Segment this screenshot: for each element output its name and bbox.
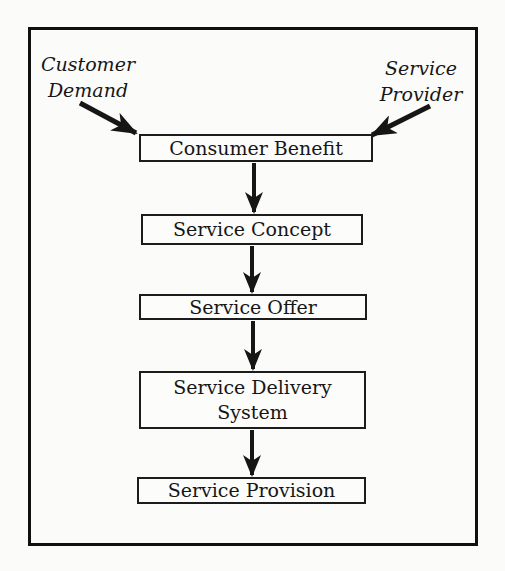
label-service-provider: Service Provider xyxy=(371,55,471,107)
label-service-provider-line1: Service xyxy=(385,57,457,79)
label-customer-demand-line2: Demand xyxy=(48,79,128,101)
box-service-offer-label: Service Offer xyxy=(189,295,316,320)
box-service-provision-label: Service Provision xyxy=(168,478,336,503)
label-customer-demand: Customer Demand xyxy=(38,51,138,103)
box-service-concept-label: Service Concept xyxy=(173,217,331,242)
box-service-delivery-system: Service Delivery System xyxy=(139,371,366,429)
box-consumer-benefit: Consumer Benefit xyxy=(139,134,373,162)
box-consumer-benefit-label: Consumer Benefit xyxy=(169,136,343,161)
box-service-offer: Service Offer xyxy=(139,294,367,320)
label-service-provider-line2: Provider xyxy=(380,83,463,105)
figure-canvas: Customer Demand Service Provider Consume… xyxy=(0,0,505,571)
box-service-concept: Service Concept xyxy=(141,214,363,245)
label-customer-demand-line1: Customer xyxy=(41,53,135,75)
box-service-provision: Service Provision xyxy=(137,477,366,504)
box-service-delivery-system-label: Service Delivery System xyxy=(163,375,343,425)
